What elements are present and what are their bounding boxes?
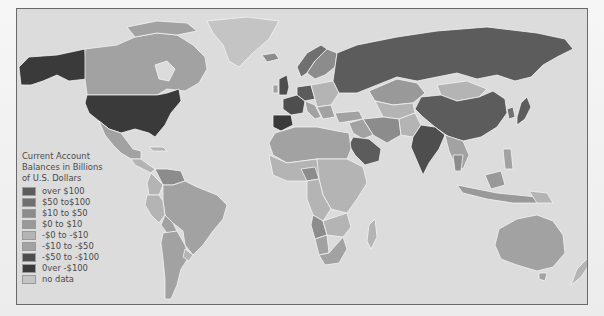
legend-label: $10 to $50 [42,208,88,219]
legend-label: -$50 to -$100 [42,252,99,263]
legend-swatch [22,275,36,284]
legend-item-0-to-10: $0 to $10 [20,219,140,230]
legend-item-10-to-50: $10 to $50 [20,208,140,219]
legend-title: Current Account Balances in Billions of … [22,151,140,184]
legend-swatch [22,187,36,196]
legend-item-over-100: over $100 [20,186,140,197]
map-legend: Current Account Balances in Billions of … [20,151,140,285]
legend-swatch [22,264,36,273]
region-thailand[interactable] [453,155,463,171]
legend-swatch [22,209,36,218]
legend-swatch [22,220,36,229]
legend-title-line-3: of U.S. Dollars [22,173,140,184]
legend-item-over-neg100: 0ver -$100 [20,263,140,274]
legend-item-no-data: no data [20,274,140,285]
legend-title-line-2: Balances in Billions [22,162,140,173]
legend-item-neg50-to-neg100: -$50 to -$100 [20,252,140,263]
legend-label: $50 to$100 [42,197,90,208]
region-uk[interactable] [279,75,289,95]
legend-swatch [22,253,36,262]
legend-swatch [22,231,36,240]
region-north-africa[interactable] [269,127,351,163]
region-philippines[interactable] [503,149,513,169]
legend-swatch [22,198,36,207]
legend-label: over $100 [42,186,85,197]
legend-label: no data [42,274,74,285]
legend-label: $0 to $10 [42,219,82,230]
legend-label: 0ver -$100 [42,263,88,274]
legend-title-line-1: Current Account [22,151,140,162]
legend-item-neg10-to-neg50: -$10 to -$50 [20,241,140,252]
legend-item-neg0-to-neg10: -$0 to -$10 [20,230,140,241]
region-ireland[interactable] [273,85,278,93]
legend-item-50-to-100: $50 to$100 [20,197,140,208]
legend-label: -$0 to -$10 [42,230,88,241]
legend-label: -$10 to -$50 [42,241,94,252]
legend-swatch [22,242,36,251]
